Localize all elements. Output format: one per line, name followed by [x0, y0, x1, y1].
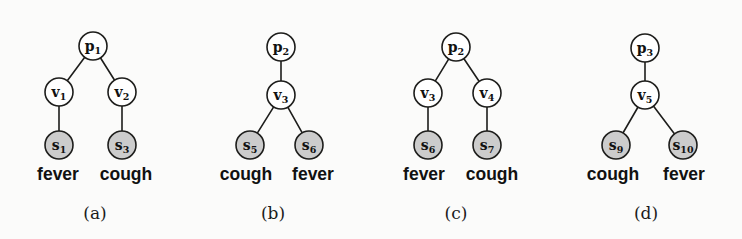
tree-panel-d: p3v5s9s10coughfever(d)	[587, 34, 705, 223]
terminal-word-label: cough	[587, 164, 640, 184]
tree-edge	[435, 58, 449, 82]
tree-node-s9: s9	[602, 131, 630, 159]
terminal-word-label: fever	[663, 164, 705, 184]
tree-node-s5: s5	[236, 131, 264, 159]
tree-node-s6c: s6	[414, 131, 442, 159]
tree-panel-a: p1v1v2s1s3fevercough(a)	[37, 32, 152, 223]
terminal-word-label: cough	[466, 164, 519, 184]
tree-panel-b: p2v3s5s6coughfever(b)	[220, 33, 334, 223]
terminal-word-label: cough	[100, 164, 153, 184]
tree-node-s6: s6	[295, 131, 323, 159]
panel-caption: (b)	[261, 203, 285, 223]
terminal-word-label: fever	[37, 164, 79, 184]
tree-node-p1: p1	[79, 32, 107, 60]
tree-panel-c: p2v3v4s6s7fevercough(c)	[403, 33, 518, 223]
panel-caption: (d)	[634, 203, 658, 223]
tree-node-p2c: p2	[442, 33, 470, 61]
parse-tree-canvas: p1v1v2s1s3fevercough(a)p2v3s5s6coughfeve…	[0, 0, 742, 239]
tree-edge	[257, 106, 274, 134]
tree-node-s7c: s7	[473, 131, 501, 159]
tree-edge	[287, 106, 302, 133]
panel-caption: (c)	[445, 203, 468, 223]
tree-edge	[67, 56, 86, 81]
parse-tree-figure: p1v1v2s1s3fevercough(a)p2v3s5s6coughfeve…	[0, 0, 742, 239]
tree-node-s3: s3	[108, 131, 136, 159]
panel-caption: (a)	[83, 203, 106, 223]
tree-node-v4c: v4	[473, 79, 501, 107]
tree-node-p3: p3	[631, 34, 659, 62]
tree-node-v2: v2	[108, 78, 136, 106]
tree-edge	[463, 58, 479, 82]
terminal-word-label: fever	[403, 164, 445, 184]
tree-node-s10: s10	[669, 131, 697, 159]
tree-node-v3: v3	[267, 81, 295, 109]
tree-node-v3c: v3	[414, 79, 442, 107]
terminal-word-label: fever	[292, 164, 334, 184]
tree-edge	[653, 105, 675, 134]
tree-node-p2: p2	[267, 33, 295, 61]
tree-node-v1: v1	[45, 78, 73, 106]
tree-edge	[623, 106, 639, 134]
terminal-word-label: cough	[220, 164, 273, 184]
tree-node-s1: s1	[45, 131, 73, 159]
tree-node-v5: v5	[631, 81, 659, 109]
tree-edge	[100, 57, 115, 81]
